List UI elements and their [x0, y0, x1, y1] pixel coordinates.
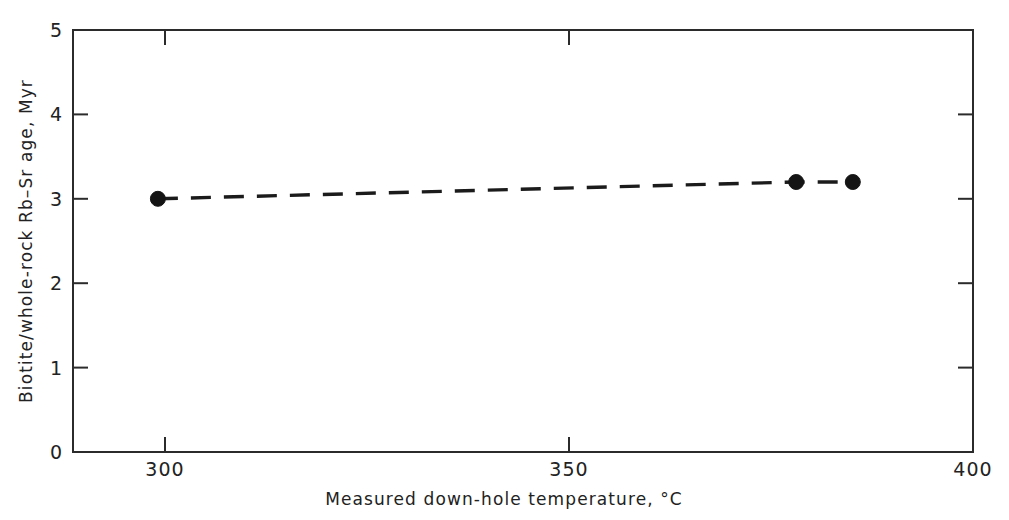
chart-svg: 0 1 2 3 4 5 300 350 400 Measured down-ho… — [0, 0, 1009, 520]
y-tick-label-4: 4 — [50, 103, 63, 125]
y-axis-ticks-right — [958, 30, 973, 452]
data-point — [789, 175, 804, 190]
y-axis-ticks-left — [73, 30, 88, 452]
x-axis-ticks-top — [165, 30, 569, 45]
x-axis-title: Measured down-hole temperature, °C — [325, 489, 683, 509]
chart-figure: 0 1 2 3 4 5 300 350 400 Measured down-ho… — [0, 0, 1009, 520]
plot-frame — [73, 30, 973, 452]
data-series-group — [150, 175, 860, 207]
x-tick-label-300: 300 — [145, 458, 184, 480]
x-tick-label-350: 350 — [549, 458, 588, 480]
data-point — [845, 175, 860, 190]
y-axis-title: Biotite/whole-rock Rb–Sr age, Myr — [16, 79, 36, 403]
y-tick-label-1: 1 — [50, 357, 63, 379]
x-tick-label-400: 400 — [953, 458, 992, 480]
data-point — [150, 191, 165, 206]
y-tick-label-3: 3 — [50, 188, 63, 210]
y-tick-label-5: 5 — [50, 19, 63, 41]
y-tick-label-0: 0 — [50, 441, 63, 463]
series-line-biotite — [158, 182, 853, 199]
x-axis-ticks-bottom — [165, 437, 569, 452]
y-tick-label-2: 2 — [50, 272, 63, 294]
